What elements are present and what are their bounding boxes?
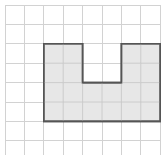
grid-shape-figure [0,0,166,155]
figure-canvas [0,0,166,155]
